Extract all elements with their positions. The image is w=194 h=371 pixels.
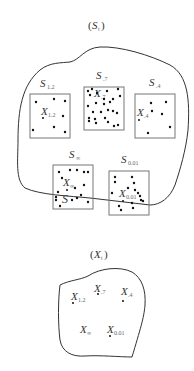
set-s-infinity: S ∞ X ∞ S [53, 148, 93, 209]
point-x-0-4: X .4 [120, 285, 133, 302]
set-s-0-7: S .7 X .7 [84, 69, 124, 130]
svg-text:∞: ∞ [87, 330, 91, 336]
svg-text:.7: .7 [103, 76, 108, 82]
svg-text:1.2: 1.2 [47, 84, 55, 90]
svg-text:0.01: 0.01 [128, 160, 139, 166]
svg-text:0.01: 0.01 [114, 330, 125, 336]
svg-text:0.01: 0.01 [126, 194, 137, 200]
set-s-0-01: S 0.01 X 0.01 [109, 153, 149, 215]
svg-text:S: S [40, 77, 46, 89]
point-x-0-01: X 0.01 [106, 323, 125, 337]
point-x-infinity: X ∞ [79, 323, 91, 336]
svg-text:∞: ∞ [70, 183, 74, 189]
svg-text:S: S [69, 148, 75, 160]
svg-text:1.2: 1.2 [48, 112, 56, 118]
set-s-0-4: S .4 X .4 [135, 76, 175, 138]
svg-text:t: t [98, 26, 100, 32]
svg-text:): ) [101, 19, 105, 32]
bottom-title: ( X t ) [90, 248, 108, 261]
point-x-0-7: X .7 [93, 282, 106, 295]
svg-text:.4: .4 [128, 292, 133, 298]
svg-text:∞: ∞ [76, 155, 80, 161]
diagram-canvas: ( S t ) S 1.2 X 1.2 S .7 X .7 [0, 0, 194, 371]
set-s-1-2: S 1.2 X 1.2 [30, 77, 70, 138]
svg-text:): ) [104, 248, 108, 261]
svg-text:S: S [149, 76, 155, 88]
top-title: ( S t ) [88, 19, 105, 32]
svg-text:.4: .4 [156, 83, 161, 89]
svg-text:.4: .4 [144, 113, 149, 119]
svg-text:S: S [96, 69, 102, 81]
svg-text:t: t [101, 255, 103, 261]
mean-space-boundary [59, 269, 146, 357]
point-x-1-2: X 1.2 [70, 290, 86, 304]
svg-text:1.2: 1.2 [78, 297, 86, 303]
svg-text:S: S [121, 153, 127, 165]
state-space-boundary [18, 47, 189, 205]
svg-text:S: S [62, 192, 68, 206]
svg-text:.7: .7 [101, 289, 106, 295]
